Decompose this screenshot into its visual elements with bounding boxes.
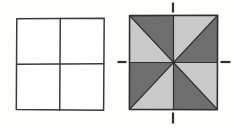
plain-square-horizontal-divider [17, 64, 104, 65]
pinwheel-shaded-square [118, 3, 231, 124]
cell-bottom-left [17, 64, 61, 110]
cell-top-right [60, 19, 104, 65]
figure-canvas [0, 0, 237, 128]
cell-bottom-right [60, 64, 104, 110]
plain-grid-square [16, 18, 104, 110]
figure-svg [0, 0, 237, 128]
cell-top-left [17, 19, 61, 65]
